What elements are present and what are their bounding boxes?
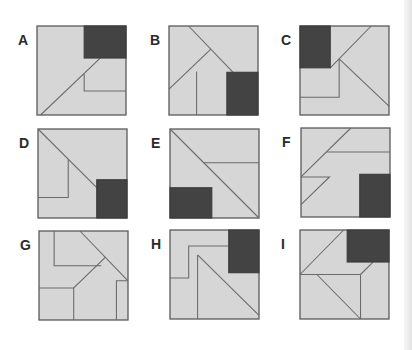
square-figure	[38, 129, 127, 218]
square-figure	[169, 26, 258, 115]
option-panel-h[interactable]: H	[151, 230, 263, 326]
square-figure	[170, 230, 259, 319]
option-panel-f[interactable]: F	[282, 128, 394, 224]
option-label: B	[150, 32, 160, 48]
square-figure	[300, 26, 389, 115]
dark-square-piece	[227, 72, 258, 115]
dark-square-piece	[97, 180, 127, 218]
option-label: F	[282, 134, 291, 150]
option-label: G	[20, 237, 31, 253]
option-label: C	[281, 32, 291, 48]
square-figure	[301, 128, 390, 217]
option-label: H	[151, 236, 161, 252]
option-panel-i[interactable]: I	[281, 230, 393, 326]
option-panel-b[interactable]: B	[150, 26, 262, 122]
page-edge-shadow	[404, 0, 412, 350]
option-panel-g[interactable]: G	[20, 231, 132, 327]
square-figure	[37, 26, 126, 115]
square-figure	[39, 231, 128, 320]
option-panel-d[interactable]: D	[19, 129, 131, 225]
dark-square-piece	[170, 188, 212, 218]
option-panel-a[interactable]: A	[18, 26, 130, 122]
option-label: A	[18, 32, 28, 48]
option-panel-c[interactable]: C	[281, 26, 393, 122]
option-panel-e[interactable]: E	[151, 129, 263, 225]
square-outline	[39, 231, 128, 320]
option-label: I	[281, 236, 285, 252]
dark-square-piece	[347, 230, 389, 262]
dark-square-piece	[300, 26, 330, 68]
square-figure	[300, 230, 389, 319]
option-label: E	[151, 135, 160, 151]
dark-square-piece	[360, 174, 390, 217]
dark-square-piece	[229, 230, 259, 273]
option-label: D	[19, 135, 29, 151]
dark-square-piece	[84, 26, 126, 58]
square-figure	[170, 129, 259, 218]
